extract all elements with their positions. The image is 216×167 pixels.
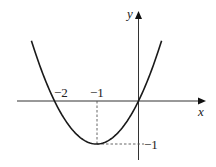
x-tick-label-minus-2: −2	[54, 85, 68, 100]
parabola-chart: y x −2 −1 −1	[0, 0, 216, 167]
y-axis-label: y	[125, 6, 133, 21]
x-axis-label: x	[197, 104, 204, 119]
y-tick-label-minus-1: −1	[144, 137, 158, 152]
y-axis-arrow-icon	[135, 11, 142, 19]
x-tick-label-minus-1: −1	[90, 85, 104, 100]
